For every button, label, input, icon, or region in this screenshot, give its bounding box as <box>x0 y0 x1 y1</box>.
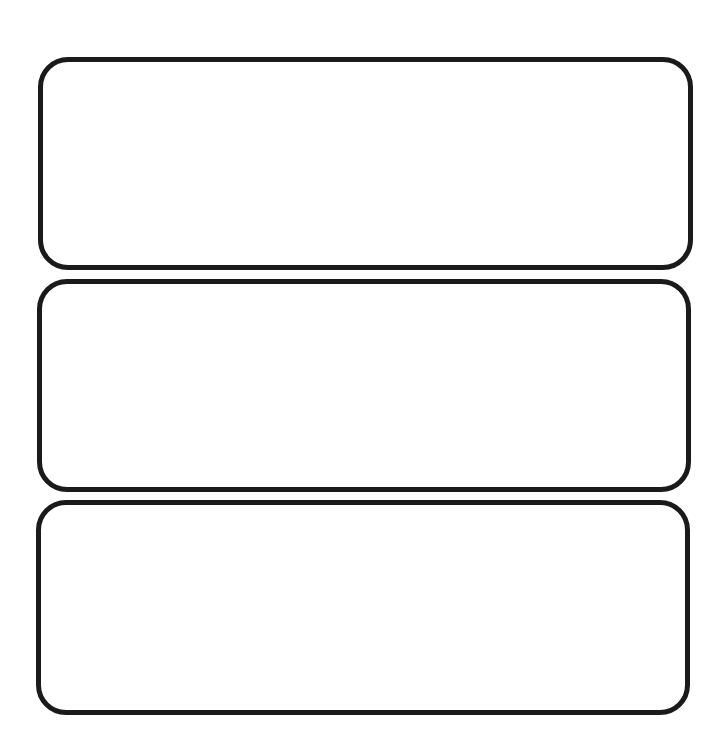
blank-box-3 <box>36 500 690 715</box>
blank-box-1 <box>38 57 693 270</box>
blank-box-2 <box>37 279 691 492</box>
